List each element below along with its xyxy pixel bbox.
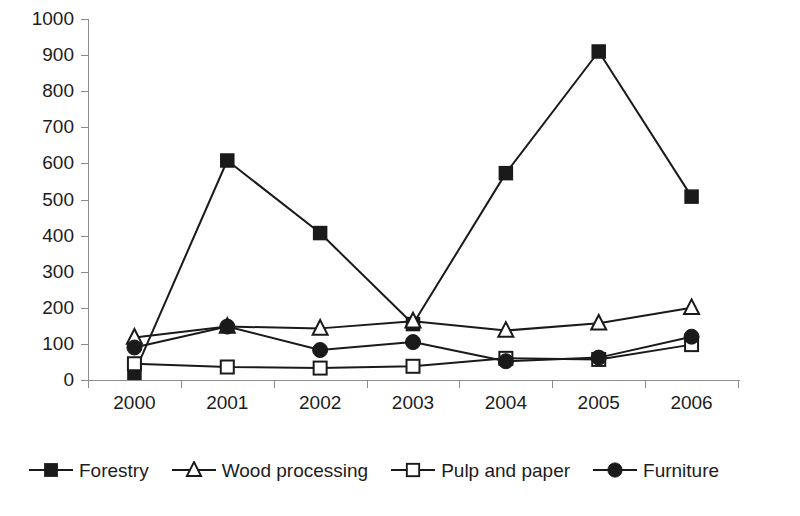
series-line bbox=[134, 51, 691, 372]
x-axis-tick bbox=[552, 380, 553, 388]
legend-item-wood-processing[interactable]: Wood processing bbox=[171, 460, 368, 481]
data-point-marker bbox=[128, 366, 141, 379]
legend-item-label: Furniture bbox=[643, 460, 719, 481]
y-axis-tick-label: 500 bbox=[42, 190, 74, 209]
data-point-marker bbox=[406, 313, 421, 328]
y-axis-tick bbox=[81, 91, 88, 92]
x-axis-tick-label: 2002 bbox=[280, 392, 360, 414]
data-point-marker bbox=[127, 329, 142, 344]
series-wood-processing bbox=[127, 299, 699, 343]
x-axis-tick bbox=[88, 380, 89, 388]
series-line bbox=[134, 345, 691, 368]
x-axis-tick-label: 2000 bbox=[94, 392, 174, 414]
data-point-marker bbox=[128, 357, 141, 370]
chart-legend: ForestryWood processingPulp and paperFur… bbox=[28, 455, 772, 485]
y-axis-tick bbox=[81, 127, 88, 128]
data-point-marker bbox=[221, 154, 234, 167]
data-point-marker bbox=[127, 340, 142, 355]
data-point-marker bbox=[313, 343, 328, 358]
data-point-marker bbox=[220, 318, 235, 333]
y-axis-tick-label: 700 bbox=[42, 117, 74, 136]
legend-item-pulp-and-paper[interactable]: Pulp and paper bbox=[390, 460, 570, 481]
x-axis-tick-label: 2005 bbox=[559, 392, 639, 414]
data-point-marker bbox=[406, 335, 421, 350]
y-axis-tick bbox=[81, 236, 88, 237]
data-point-marker bbox=[314, 362, 327, 375]
x-axis-tick-label: 2003 bbox=[373, 392, 453, 414]
y-axis-tick bbox=[81, 272, 88, 273]
data-point-marker bbox=[684, 329, 699, 344]
data-point-marker bbox=[592, 45, 605, 58]
y-axis-tick bbox=[81, 55, 88, 56]
data-point-marker bbox=[592, 353, 605, 366]
line-chart: 10009008007006005004003002001000 2000200… bbox=[0, 0, 800, 516]
legend-item-forestry[interactable]: Forestry bbox=[28, 460, 149, 481]
x-axis-tick-label: 2001 bbox=[187, 392, 267, 414]
legend-marker-filled-square-icon bbox=[28, 461, 74, 479]
data-point-marker bbox=[591, 315, 606, 330]
data-point-marker bbox=[499, 167, 512, 180]
data-point-marker bbox=[685, 338, 698, 351]
y-axis-tick-label: 1000 bbox=[32, 9, 74, 28]
legend-marker-open-triangle-icon bbox=[171, 461, 217, 479]
data-point-marker bbox=[407, 318, 420, 331]
y-axis-tick-label: 0 bbox=[63, 370, 74, 389]
y-axis-tick-label: 100 bbox=[42, 334, 74, 353]
series-layer bbox=[0, 0, 800, 516]
x-axis-tick bbox=[459, 380, 460, 388]
y-axis-tick-label: 900 bbox=[42, 45, 74, 64]
series-line bbox=[134, 327, 691, 362]
y-axis-tick bbox=[81, 308, 88, 309]
data-point-marker bbox=[591, 350, 606, 365]
legend-marker-open-square-icon bbox=[390, 461, 436, 479]
y-axis-tick-label: 600 bbox=[42, 153, 74, 172]
y-axis-tick bbox=[81, 200, 88, 201]
data-point-marker bbox=[684, 299, 699, 314]
series-pulp-and-paper bbox=[128, 338, 698, 374]
data-point-marker bbox=[685, 190, 698, 203]
x-axis-tick bbox=[738, 380, 739, 388]
x-axis-tick-label: 2004 bbox=[466, 392, 546, 414]
data-point-marker bbox=[221, 361, 234, 374]
x-axis-tick-label: 2006 bbox=[652, 392, 732, 414]
legend-item-label: Forestry bbox=[79, 460, 149, 481]
y-axis-tick bbox=[81, 380, 88, 381]
y-axis-tick bbox=[81, 344, 88, 345]
legend-item-furniture[interactable]: Furniture bbox=[592, 460, 719, 481]
y-axis-tick bbox=[81, 163, 88, 164]
data-point-marker bbox=[499, 352, 512, 365]
data-point-marker bbox=[498, 354, 513, 369]
data-point-marker bbox=[407, 360, 420, 373]
y-axis-tick-label: 800 bbox=[42, 81, 74, 100]
legend-item-label: Wood processing bbox=[222, 460, 368, 481]
x-axis-tick bbox=[181, 380, 182, 388]
series-forestry bbox=[128, 45, 698, 379]
data-point-marker bbox=[498, 322, 513, 337]
x-axis-line bbox=[88, 380, 740, 381]
legend-marker-filled-circle-icon bbox=[592, 461, 638, 479]
legend-item-label: Pulp and paper bbox=[441, 460, 570, 481]
series-furniture bbox=[127, 319, 699, 369]
y-axis-line bbox=[88, 19, 89, 380]
x-axis-tick bbox=[274, 380, 275, 388]
series-line bbox=[134, 308, 691, 338]
data-point-marker bbox=[220, 319, 235, 334]
y-axis-tick-label: 300 bbox=[42, 262, 74, 281]
x-axis-tick bbox=[645, 380, 646, 388]
data-point-marker bbox=[313, 320, 328, 335]
y-axis-tick-label: 200 bbox=[42, 298, 74, 317]
y-axis-tick-label: 400 bbox=[42, 226, 74, 245]
x-axis-tick bbox=[367, 380, 368, 388]
data-point-marker bbox=[314, 227, 327, 240]
y-axis-tick bbox=[81, 19, 88, 20]
